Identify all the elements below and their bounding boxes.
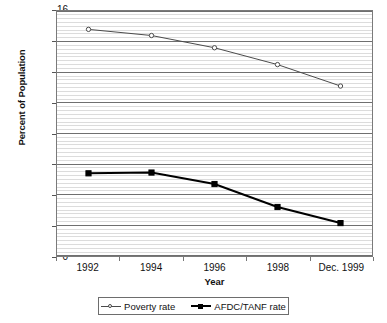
y-axis-title: Percent of Population (16, 13, 27, 183)
series-line-afdc-tanf-rate (89, 173, 341, 224)
data-point-marker[interactable] (149, 170, 154, 175)
chart-container: Percent of Population 0246810121416 1992… (0, 0, 387, 323)
x-tick-mark (246, 257, 247, 261)
afdc-tanf-rate-marker-icon (191, 301, 211, 311)
chart-legend: Poverty rate AFDC/TANF rate (98, 297, 289, 315)
x-tick-label: 1992 (77, 262, 99, 273)
x-tick-label: 1994 (140, 262, 162, 273)
data-point-marker[interactable] (212, 181, 217, 186)
x-tick-mark (310, 257, 311, 261)
data-point-marker[interactable] (86, 171, 91, 176)
x-tick-mark (373, 257, 374, 261)
x-tick-mark (56, 257, 57, 261)
x-tick-mark (119, 257, 120, 261)
data-point-marker[interactable] (149, 33, 153, 37)
data-point-marker[interactable] (275, 62, 279, 66)
data-point-marker[interactable] (86, 27, 90, 31)
x-tick-label: Dec. 1999 (319, 262, 365, 273)
plot-svg (57, 11, 372, 256)
poverty-rate-marker-icon (101, 301, 121, 311)
x-tick-mark (183, 257, 184, 261)
legend-item-afdc-tanf-rate[interactable]: AFDC/TANF rate (191, 301, 286, 312)
data-point-marker[interactable] (275, 204, 280, 209)
plot-area (56, 10, 373, 257)
data-point-marker[interactable] (338, 220, 343, 225)
data-point-marker[interactable] (212, 46, 216, 50)
x-tick-label: 1996 (203, 262, 225, 273)
legend-label-afdc-tanf-rate: AFDC/TANF rate (214, 301, 286, 312)
x-tick-label: 1998 (267, 262, 289, 273)
legend-item-poverty-rate[interactable]: Poverty rate (101, 301, 175, 312)
legend-label-poverty-rate: Poverty rate (124, 301, 175, 312)
data-point-marker[interactable] (338, 84, 342, 88)
x-axis-title: Year (56, 276, 373, 287)
